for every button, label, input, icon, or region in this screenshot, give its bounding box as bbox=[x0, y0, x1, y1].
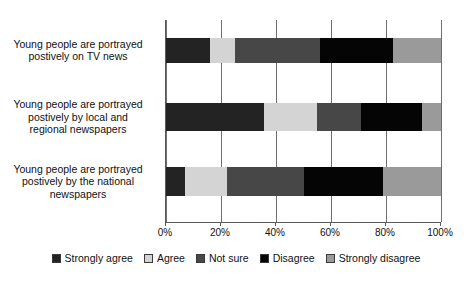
legend-label: Not sure bbox=[209, 252, 249, 264]
legend-label: Disagree bbox=[273, 252, 315, 264]
bar-row bbox=[166, 167, 441, 196]
category-label-line: regional newspapers bbox=[2, 123, 154, 136]
legend-swatch-icon bbox=[196, 254, 205, 263]
legend-label: Agree bbox=[157, 252, 185, 264]
chart-legend: Strongly agreeAgreeNot sureDisagreeStron… bbox=[0, 252, 472, 264]
bar-segment-not-sure bbox=[317, 103, 361, 131]
bar-segment-agree bbox=[185, 167, 226, 196]
legend-swatch-icon bbox=[326, 254, 335, 263]
x-axis-tick-label: 100% bbox=[427, 227, 453, 238]
legend-item-strongly-disagree[interactable]: Strongly disagree bbox=[326, 252, 421, 264]
legend-item-disagree[interactable]: Disagree bbox=[260, 252, 315, 264]
legend-item-agree[interactable]: Agree bbox=[144, 252, 185, 264]
category-label-line: Young people are portrayed bbox=[2, 98, 154, 111]
x-axis-tick bbox=[165, 222, 166, 226]
bar-segment-strongly-disagree bbox=[383, 167, 441, 196]
bar-segment-strongly-agree bbox=[166, 103, 264, 131]
bar-segment-disagree bbox=[361, 103, 422, 131]
bar-segment-not-sure bbox=[227, 167, 304, 196]
category-label: Young people are portrayedpostively by l… bbox=[2, 98, 154, 136]
stacked-bar-chart: Young people are portrayedpostively on T… bbox=[0, 0, 472, 282]
category-label-line: Young people are portrayed bbox=[2, 163, 154, 176]
category-label: Young people are portrayedpostively by t… bbox=[2, 163, 154, 201]
legend-label: Strongly agree bbox=[65, 252, 133, 264]
legend-label: Strongly disagree bbox=[339, 252, 421, 264]
x-axis-tick-label: 20% bbox=[210, 227, 230, 238]
legend-item-strongly-agree[interactable]: Strongly agree bbox=[52, 252, 133, 264]
category-label-line: postively by local and bbox=[2, 111, 154, 124]
category-axis-labels: Young people are portrayedpostively on T… bbox=[0, 20, 160, 222]
gridline-100 bbox=[441, 20, 442, 222]
bar-row bbox=[166, 103, 441, 131]
bar-segment-strongly-agree bbox=[166, 167, 185, 196]
bar-segment-strongly-agree bbox=[166, 38, 210, 63]
legend-swatch-icon bbox=[260, 254, 269, 263]
bar-segment-strongly-disagree bbox=[422, 103, 441, 131]
x-axis-tick-label: 60% bbox=[320, 227, 340, 238]
bar-segment-disagree bbox=[320, 38, 393, 63]
bar-row bbox=[166, 38, 441, 63]
category-label-line: postively by the national bbox=[2, 175, 154, 188]
x-axis-tick-label: 40% bbox=[265, 227, 285, 238]
category-label: Young people are portrayedpostively on T… bbox=[2, 38, 154, 63]
category-label-line: postively on TV news bbox=[2, 50, 154, 63]
bar-segment-agree bbox=[264, 103, 318, 131]
category-label-line: newspapers bbox=[2, 188, 154, 201]
legend-swatch-icon bbox=[144, 254, 153, 263]
legend-item-not-sure[interactable]: Not sure bbox=[196, 252, 249, 264]
x-axis-tick-label: 0% bbox=[158, 227, 172, 238]
legend-swatch-icon bbox=[52, 254, 61, 263]
x-axis-tick bbox=[440, 222, 441, 226]
x-axis-tick-label: 80% bbox=[375, 227, 395, 238]
bar-segment-not-sure bbox=[235, 38, 320, 63]
x-axis-tick bbox=[220, 222, 221, 226]
plot-area bbox=[165, 20, 441, 223]
bar-segment-disagree bbox=[304, 167, 384, 196]
x-axis-tick bbox=[330, 222, 331, 226]
x-axis-tick bbox=[275, 222, 276, 226]
bar-segment-agree bbox=[210, 38, 235, 63]
bar-segment-strongly-disagree bbox=[393, 38, 441, 63]
category-label-line: Young people are portrayed bbox=[2, 38, 154, 51]
x-axis-tick bbox=[385, 222, 386, 226]
